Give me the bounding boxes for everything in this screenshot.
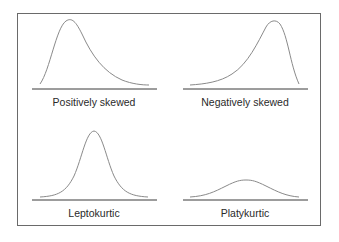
distribution-shapes — [0, 0, 339, 242]
panel-negatively-skewed — [183, 21, 308, 89]
label-platykurtic: Platykurtic — [180, 207, 310, 219]
positively-skewed-curve — [40, 20, 149, 85]
platykurtic-curve — [190, 180, 299, 197]
leptokurtic-curve — [40, 131, 148, 197]
panel-positively-skewed — [32, 20, 157, 89]
panel-leptokurtic — [32, 131, 157, 200]
label-negatively-skewed: Negatively skewed — [180, 96, 310, 108]
negatively-skewed-curve — [190, 21, 299, 85]
label-leptokurtic: Leptokurtic — [29, 207, 159, 219]
label-positively-skewed: Positively skewed — [29, 96, 159, 108]
panel-platykurtic — [183, 180, 308, 200]
